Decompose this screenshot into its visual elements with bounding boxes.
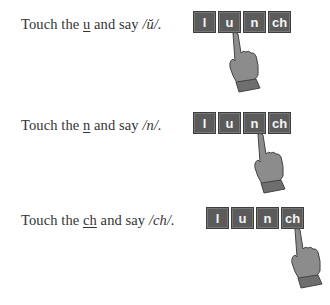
tile-n[interactable]: n xyxy=(243,11,266,33)
sound-phoneme: /ŭ/. xyxy=(142,16,161,32)
target-letter: ch xyxy=(83,212,97,228)
instruction-row-3: Touch the ch and say /ch/. l u n ch xyxy=(0,195,330,305)
sound-phoneme: /ch/. xyxy=(149,212,175,228)
tile-l[interactable]: l xyxy=(193,11,216,33)
tile-u[interactable]: u xyxy=(231,207,254,229)
tile-n[interactable]: n xyxy=(256,207,279,229)
pointing-hand-icon xyxy=(289,227,323,289)
sound-phoneme: /n/. xyxy=(142,117,161,133)
instruction-middle: and say xyxy=(97,212,149,228)
tile-u[interactable]: u xyxy=(218,11,241,33)
instruction-middle: and say xyxy=(90,117,142,133)
tile-l[interactable]: l xyxy=(206,207,229,229)
instruction-text: Touch the ch and say /ch/. xyxy=(21,212,175,229)
instruction-text: Touch the u and say /ŭ/. xyxy=(21,16,162,33)
tile-ch[interactable]: ch xyxy=(281,207,304,229)
letter-tiles: l u n ch xyxy=(206,207,304,229)
letter-tiles: l u n ch xyxy=(193,112,291,134)
tile-ch[interactable]: ch xyxy=(268,112,291,134)
tile-u[interactable]: u xyxy=(218,112,241,134)
tile-l[interactable]: l xyxy=(193,112,216,134)
instruction-row-2: Touch the n and say /n/. l u n ch xyxy=(0,100,330,195)
tile-ch[interactable]: ch xyxy=(268,11,291,33)
letter-tiles: l u n ch xyxy=(193,11,291,33)
instruction-text: Touch the n and say /n/. xyxy=(21,117,162,134)
pointing-hand-icon xyxy=(227,31,261,93)
instruction-middle: and say xyxy=(90,16,142,32)
tile-n[interactable]: n xyxy=(243,112,266,134)
pointing-hand-icon xyxy=(252,132,286,194)
instruction-row-1: Touch the u and say /ŭ/. l u n ch xyxy=(0,0,330,95)
instruction-prefix: Touch the xyxy=(21,212,83,228)
instruction-prefix: Touch the xyxy=(21,117,83,133)
instruction-prefix: Touch the xyxy=(21,16,83,32)
